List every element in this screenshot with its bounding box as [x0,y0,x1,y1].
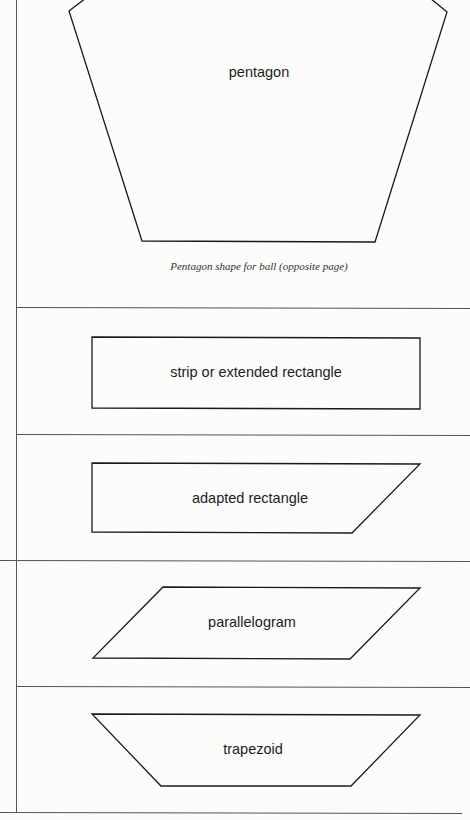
parallelogram-label: parallelogram [208,614,296,630]
shape-diagram [0,0,470,820]
trapezoid-label: trapezoid [223,741,283,757]
strip-label: strip or extended rectangle [170,364,342,380]
pentagon-caption: Pentagon shape for ball (opposite page) [170,260,348,272]
section-divider [16,687,470,688]
pentagon-shape [69,0,447,242]
section-divider [0,561,470,562]
section-divider [16,435,470,436]
pentagon-label: pentagon [229,64,289,80]
section-divider [16,308,470,309]
bottom-rule [0,813,462,814]
adapted-rectangle-label: adapted rectangle [192,490,308,506]
